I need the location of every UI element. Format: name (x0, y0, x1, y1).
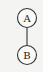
node-b-label: B (23, 50, 30, 61)
node-b: B (18, 46, 37, 65)
node-a: A (18, 9, 37, 28)
tree-diagram: A B (0, 0, 43, 72)
node-a-label: A (22, 13, 31, 24)
